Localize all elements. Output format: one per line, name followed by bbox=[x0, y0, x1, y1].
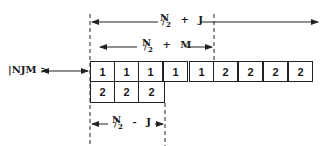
span-label-n2-plus-m: N / 2 + M bbox=[142, 39, 191, 52]
span-label-n2-plus-j: N / 2 + J bbox=[160, 14, 203, 27]
cell: 2 bbox=[138, 81, 165, 103]
fraction-n-over-2: N / 2 bbox=[160, 15, 171, 27]
cell: 2 bbox=[213, 61, 238, 82]
span-label-n2-minus-j: N / 2 - J bbox=[112, 116, 151, 129]
cell: 2 bbox=[288, 61, 313, 82]
cell: 2 bbox=[114, 81, 139, 103]
cell: 2 bbox=[263, 61, 288, 82]
cell: 1 bbox=[90, 61, 115, 82]
cell: 1 bbox=[138, 61, 163, 82]
fraction-n-over-2: N / 2 bbox=[142, 40, 153, 52]
cell: 2 bbox=[238, 61, 263, 82]
state-label: |NJM > bbox=[8, 64, 48, 75]
cell: 1 bbox=[163, 61, 188, 82]
cell: 2 bbox=[90, 81, 115, 103]
cell: 1 bbox=[114, 61, 139, 82]
cell: 1 bbox=[189, 61, 214, 82]
fraction-n-over-2: N / 2 bbox=[112, 117, 123, 129]
